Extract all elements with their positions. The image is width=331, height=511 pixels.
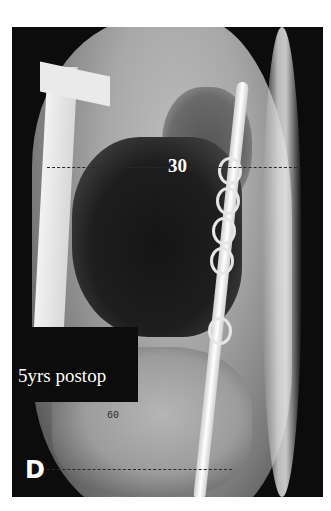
angle-label-lower: 60 xyxy=(107,410,119,421)
pedicle-screw xyxy=(208,317,232,345)
measurement-line-lower xyxy=(42,469,232,470)
radiograph-image xyxy=(12,27,323,497)
panel-label: D xyxy=(25,456,44,484)
back-contour xyxy=(262,27,302,497)
pedicle-screw xyxy=(210,247,234,275)
pedicle-screw xyxy=(212,217,236,245)
pedicle-screw xyxy=(216,187,240,215)
caption-label: 5yrs postop xyxy=(18,365,106,387)
pedicle-screw xyxy=(218,157,242,185)
angle-label-upper: 30 xyxy=(168,155,187,177)
